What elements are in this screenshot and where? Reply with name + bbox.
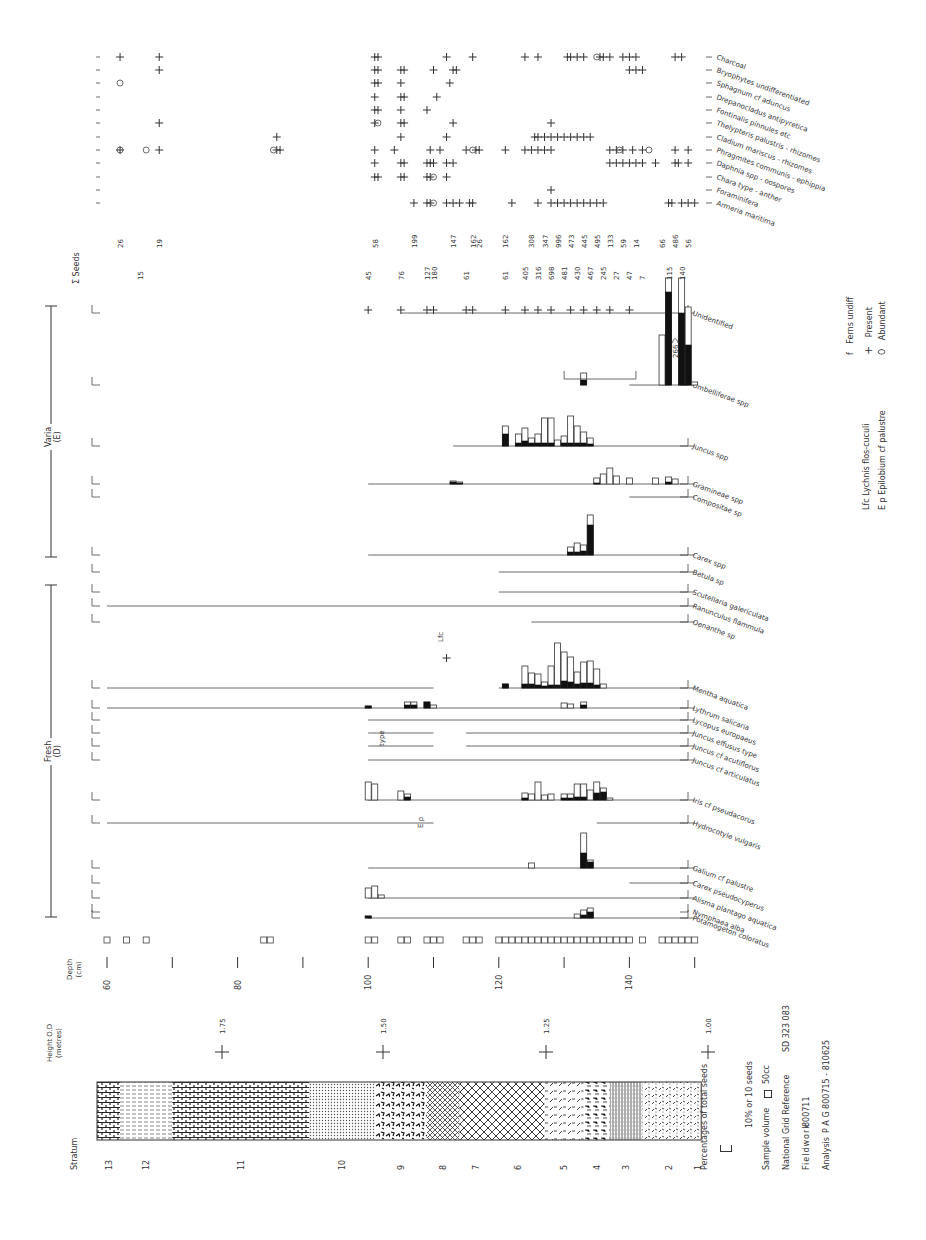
sample-box <box>470 937 476 943</box>
seed-count: 430 <box>574 267 582 280</box>
plus-icon <box>446 79 454 87</box>
bar-fraction <box>587 525 593 555</box>
sample-box <box>594 937 600 943</box>
plus-icon <box>462 146 470 154</box>
sample-box <box>261 937 267 943</box>
taxon-right-tick <box>680 738 688 746</box>
bar-fraction <box>568 443 574 446</box>
sample-box <box>568 937 574 943</box>
sample-volume-box-icon <box>764 1090 772 1098</box>
bar-total <box>561 703 567 708</box>
plus-icon <box>443 173 451 181</box>
taxon-axis-tick <box>92 890 100 898</box>
height-od-tick <box>215 1045 229 1059</box>
sample-box <box>659 937 665 943</box>
taxon-right-tick <box>680 489 688 497</box>
sample-box <box>587 937 593 943</box>
seed-count: 316 <box>535 266 543 280</box>
bar-total <box>548 794 554 800</box>
bar-fraction <box>457 483 463 484</box>
taxon-axis-tick <box>92 904 100 912</box>
depth-tick-label: 140 <box>625 975 634 990</box>
taxon-right-tick <box>680 712 688 720</box>
sample-box <box>574 937 580 943</box>
seed-count: 180 <box>431 267 439 280</box>
plus-icon <box>638 159 646 167</box>
seed-count: 996 <box>555 234 563 248</box>
bar-total <box>672 479 678 484</box>
seed-count: 19 <box>156 239 164 248</box>
depth-tick-label: 120 <box>495 975 504 990</box>
stratum-number: 9 <box>397 1165 406 1170</box>
plus-icon <box>155 119 163 127</box>
stratum-unit <box>427 1082 460 1140</box>
legend-fieldwork-label: Fieldwork <box>802 1123 811 1170</box>
bar-total <box>613 476 619 484</box>
bar-total <box>600 684 606 688</box>
sample-box <box>398 937 404 943</box>
sample-box <box>542 937 548 943</box>
taxon-axis-tick <box>92 875 100 883</box>
seed-count: 59 <box>620 239 628 248</box>
sample-box <box>143 937 149 943</box>
stratum-unit <box>610 1082 643 1140</box>
height-od-value: 1.25 <box>543 1018 551 1034</box>
taxa-labels: Scutellaria galericulataRanunculus flamm… <box>92 305 778 950</box>
plus-icon <box>580 53 588 61</box>
stratum-column <box>97 1082 701 1140</box>
taxon-axis-tick <box>92 860 100 868</box>
group-fresh-label: Fresh (D) <box>44 738 62 765</box>
sample-box <box>607 937 613 943</box>
depth-tick-label: 100 <box>364 975 373 990</box>
taxon-right-tick <box>680 598 688 606</box>
plus-icon <box>547 119 555 127</box>
taxon-axis-tick <box>92 598 100 606</box>
stratum-number: 5 <box>560 1165 569 1170</box>
plus-icon <box>397 106 405 114</box>
plus-icon <box>684 159 692 167</box>
seed-count: 47 <box>626 271 634 280</box>
bar-total <box>568 416 574 446</box>
bar-fraction <box>581 915 587 918</box>
sample-box <box>685 937 691 943</box>
plus-icon <box>449 119 457 127</box>
fresh-title: Fresh <box>44 741 53 762</box>
bar-fraction <box>594 685 600 688</box>
seed-count: 495 <box>594 235 602 248</box>
plus-icon <box>155 66 163 74</box>
plus-icon <box>449 159 457 167</box>
plus-icon <box>632 53 640 61</box>
sample-box <box>626 937 632 943</box>
taxon-axis-tick <box>92 438 100 446</box>
stratum-number: 4 <box>593 1165 602 1170</box>
sample-box <box>679 937 685 943</box>
bar-fraction <box>404 797 410 800</box>
sample-box <box>535 937 541 943</box>
bar-fraction <box>411 705 417 708</box>
bar-fraction <box>581 443 587 446</box>
taxon-axis-tick <box>92 584 100 592</box>
bar-fraction <box>581 853 587 868</box>
bar-fraction <box>535 685 541 688</box>
bar-fraction <box>561 681 567 688</box>
bar-total <box>568 704 574 708</box>
taxon-right-tick <box>680 725 688 733</box>
sample-box <box>561 937 567 943</box>
stratum-unit <box>172 1082 309 1140</box>
seed-count: 473 <box>568 235 576 248</box>
plus-icon <box>397 133 405 141</box>
bar-fraction <box>581 551 587 555</box>
stratum-unit <box>120 1082 172 1140</box>
bar-fraction <box>594 483 600 484</box>
bar-fraction <box>666 482 672 484</box>
bar-fraction <box>568 552 574 555</box>
abundant-label: Abundant <box>878 301 887 340</box>
plus-icon <box>678 53 686 61</box>
taxon-label: Umbelliferae spp <box>691 381 750 409</box>
plus-icon <box>456 199 464 207</box>
plus-icon <box>397 79 405 87</box>
seed-count: 405 <box>522 267 530 280</box>
seed-count: 7 <box>639 276 647 280</box>
plus-icon <box>508 199 516 207</box>
legend-ferns: f Ferns undiff <box>846 297 855 355</box>
